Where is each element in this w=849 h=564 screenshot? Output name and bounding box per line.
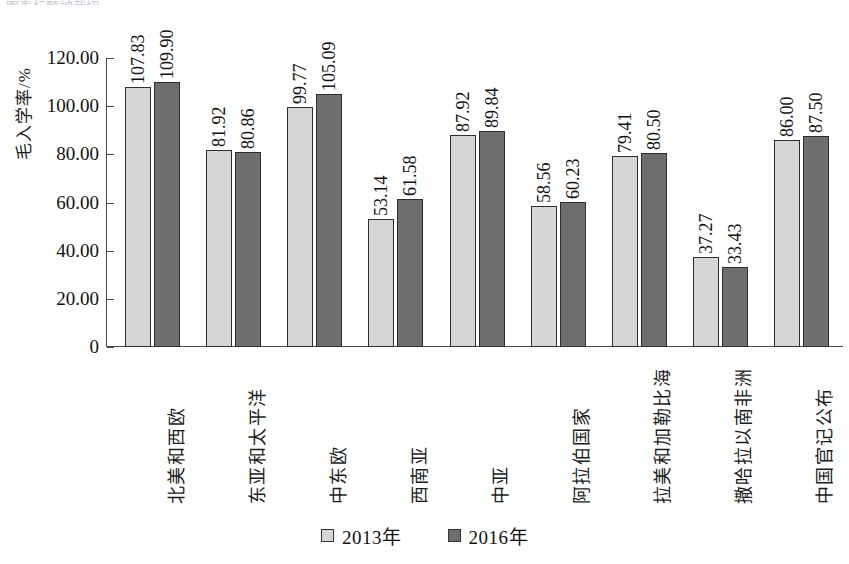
bar-value-label: 81.92 bbox=[209, 106, 230, 147]
bar[interactable]: 53.14 bbox=[368, 219, 394, 347]
bar-value-label: 61.58 bbox=[400, 155, 421, 196]
bar-group: 81.9280.86 bbox=[206, 58, 261, 347]
bar-value-label: 37.27 bbox=[695, 214, 716, 255]
y-tick-mark bbox=[107, 299, 114, 300]
bar-value-label: 109.90 bbox=[157, 30, 178, 80]
x-axis-category-text: 北美和西欧 bbox=[162, 407, 188, 505]
bar[interactable]: 80.50 bbox=[641, 153, 667, 347]
y-tick-mark bbox=[107, 347, 114, 348]
y-tick-label: 40.00 bbox=[56, 240, 99, 262]
bar-group: 37.2733.43 bbox=[693, 58, 748, 347]
bar[interactable]: 33.43 bbox=[722, 267, 748, 348]
legend-label-2013: 2013年 bbox=[342, 522, 402, 549]
bar-value-label: 80.50 bbox=[643, 110, 664, 151]
y-tick-mark bbox=[107, 154, 114, 155]
clipped-caption-top: 图表标题被裁切 bbox=[6, 0, 336, 5]
bar[interactable]: 99.77 bbox=[287, 107, 313, 347]
plot-area: 020.0040.0060.0080.00100.00120.00 107.83… bbox=[106, 58, 836, 347]
bar[interactable]: 87.50 bbox=[803, 136, 829, 347]
x-axis-category-text: 拉美和加勒比海 bbox=[648, 368, 674, 505]
x-axis-category-text: 中亚 bbox=[486, 465, 512, 504]
y-tick-label: 100.00 bbox=[47, 95, 99, 117]
bar-chart-figure: 图表标题被裁切 毛入学率/% 020.0040.0060.0080.00100.… bbox=[0, 0, 849, 564]
bar-group: 99.77105.09 bbox=[287, 58, 342, 347]
y-tick-label: 80.00 bbox=[56, 143, 99, 165]
legend-item-2013[interactable]: 2013年 bbox=[321, 522, 402, 549]
y-tick-label: 0 bbox=[90, 336, 100, 358]
bar[interactable]: 86.00 bbox=[774, 140, 800, 347]
bar[interactable]: 60.23 bbox=[560, 202, 586, 347]
bar-value-label: 80.86 bbox=[238, 109, 259, 150]
legend-swatch-2016-icon bbox=[448, 529, 461, 542]
bar[interactable]: 61.58 bbox=[397, 199, 423, 347]
y-tick-label: 20.00 bbox=[56, 288, 99, 310]
bar-group: 87.9289.84 bbox=[450, 58, 505, 347]
y-tick-mark bbox=[107, 58, 114, 59]
y-tick-mark bbox=[107, 203, 114, 204]
bar-group: 79.4180.50 bbox=[612, 58, 667, 347]
bar-value-label: 79.41 bbox=[614, 112, 635, 153]
bar[interactable]: 107.83 bbox=[125, 87, 151, 347]
legend-label-2016: 2016年 bbox=[469, 522, 529, 549]
legend-item-2016[interactable]: 2016年 bbox=[448, 522, 529, 549]
y-tick-mark bbox=[107, 251, 114, 252]
bar-group: 53.1461.58 bbox=[368, 58, 423, 347]
bar-value-label: 105.09 bbox=[319, 41, 340, 91]
x-axis-category-text: 阿拉伯国家 bbox=[567, 407, 593, 505]
bar[interactable]: 105.09 bbox=[316, 94, 342, 347]
chart-legend: 2013年 2016年 bbox=[0, 522, 849, 549]
x-axis-category-text: 中国官记公布 bbox=[810, 387, 836, 504]
bar[interactable]: 80.86 bbox=[235, 152, 261, 347]
bar[interactable]: 58.56 bbox=[531, 206, 557, 347]
legend-swatch-2013-icon bbox=[321, 529, 334, 542]
y-tick-label: 60.00 bbox=[56, 192, 99, 214]
bar-value-label: 53.14 bbox=[371, 176, 392, 217]
bar-value-label: 99.77 bbox=[290, 63, 311, 104]
bar-value-label: 87.50 bbox=[805, 93, 826, 134]
bar[interactable]: 81.92 bbox=[206, 150, 232, 347]
bar-value-label: 89.84 bbox=[481, 87, 502, 128]
x-axis-category-text: 中东欧 bbox=[324, 446, 350, 505]
y-tick-label: 120.00 bbox=[47, 47, 99, 69]
bar[interactable]: 37.27 bbox=[693, 257, 719, 347]
bar-group: 58.5660.23 bbox=[531, 58, 586, 347]
bar-value-label: 87.92 bbox=[452, 92, 473, 133]
bar[interactable]: 109.90 bbox=[154, 82, 180, 347]
bar[interactable]: 87.92 bbox=[450, 135, 476, 347]
bar-value-label: 107.83 bbox=[128, 35, 149, 85]
bar-value-label: 86.00 bbox=[776, 96, 797, 137]
bar-value-label: 58.56 bbox=[533, 162, 554, 203]
bar-group: 86.0087.50 bbox=[774, 58, 829, 347]
x-axis-category-text: 东亚和太平洋 bbox=[243, 387, 269, 504]
bar[interactable]: 79.41 bbox=[612, 156, 638, 347]
y-axis-title: 毛入学率/% bbox=[10, 10, 35, 160]
x-axis-category-text: 西南亚 bbox=[405, 446, 431, 505]
y-tick-mark bbox=[107, 106, 114, 107]
bar-group: 107.83109.90 bbox=[125, 58, 180, 347]
bar-value-label: 60.23 bbox=[562, 158, 583, 199]
x-axis-category-text: 撒哈拉以南非洲 bbox=[729, 368, 755, 505]
bar[interactable]: 89.84 bbox=[479, 131, 505, 347]
bar-value-label: 33.43 bbox=[724, 223, 745, 264]
